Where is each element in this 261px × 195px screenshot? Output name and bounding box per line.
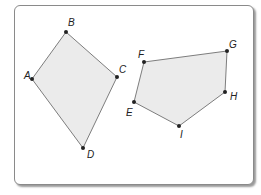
pentagon-efghi bbox=[134, 51, 227, 126]
point-c bbox=[115, 75, 119, 79]
label-d: D bbox=[87, 149, 94, 160]
point-e bbox=[132, 100, 136, 104]
point-f bbox=[142, 60, 146, 64]
point-h bbox=[223, 90, 227, 94]
label-g: G bbox=[229, 39, 237, 50]
geometry-figure: A B C D E F G H I bbox=[0, 0, 261, 195]
label-i: I bbox=[180, 129, 183, 140]
label-e: E bbox=[126, 107, 133, 118]
label-c: C bbox=[119, 64, 127, 75]
point-d bbox=[81, 146, 85, 150]
label-f: F bbox=[138, 49, 145, 60]
point-i bbox=[177, 124, 181, 128]
label-h: H bbox=[230, 91, 238, 102]
quadrilateral-abcd bbox=[32, 32, 117, 148]
point-b bbox=[64, 30, 68, 34]
label-b: B bbox=[68, 17, 75, 28]
label-a: A bbox=[23, 70, 31, 81]
